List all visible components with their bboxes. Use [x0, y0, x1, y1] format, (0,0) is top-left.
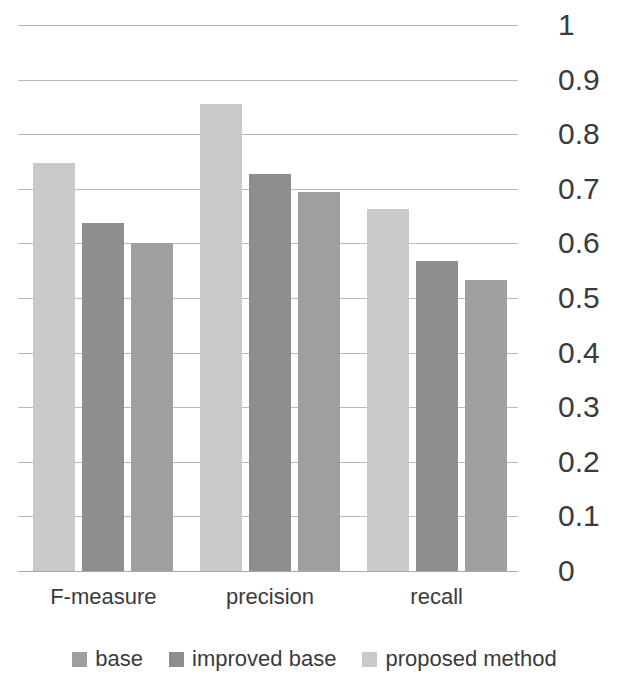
legend-label: proposed method: [385, 648, 556, 670]
bar: [33, 163, 75, 571]
legend-label: base: [95, 648, 143, 670]
y-tick-label: 0: [558, 556, 575, 586]
bar: [131, 243, 173, 571]
gridline: [18, 571, 518, 572]
y-tick-label: 0.1: [558, 501, 600, 531]
plot-area: [18, 25, 518, 571]
y-tick-label: 0.9: [558, 65, 600, 95]
legend-item[interactable]: proposed method: [362, 648, 556, 670]
bar: [298, 192, 340, 571]
y-tick-label: 0.3: [558, 392, 600, 422]
gridline: [18, 80, 518, 81]
legend-swatch-icon: [362, 652, 377, 667]
bar: [82, 223, 124, 571]
legend-item[interactable]: base: [72, 648, 143, 670]
gridline: [18, 134, 518, 135]
legend-label: improved base: [192, 648, 336, 670]
y-tick-label: 0.5: [558, 283, 600, 313]
y-tick-label: 0.7: [558, 174, 600, 204]
bar: [465, 280, 507, 571]
category-label: precision: [226, 586, 314, 608]
y-tick-label: 0.4: [558, 338, 600, 368]
bar-chart: 00.10.20.30.40.50.60.70.80.91 F-measurep…: [0, 0, 629, 693]
bar: [367, 209, 409, 571]
chart-legend: baseimproved baseproposed method: [0, 648, 629, 670]
bar: [416, 261, 458, 571]
legend-item[interactable]: improved base: [169, 648, 336, 670]
category-label: recall: [410, 586, 463, 608]
bar: [249, 174, 291, 571]
y-tick-label: 0.8: [558, 119, 600, 149]
category-label: F-measure: [50, 586, 156, 608]
legend-swatch-icon: [72, 652, 87, 667]
legend-swatch-icon: [169, 652, 184, 667]
gridline: [18, 25, 518, 26]
x-axis: F-measureprecisionrecall: [18, 586, 518, 620]
y-axis: 00.10.20.30.40.50.60.70.80.91: [558, 0, 628, 600]
bar: [200, 104, 242, 571]
y-tick-label: 0.6: [558, 228, 600, 258]
y-tick-label: 0.2: [558, 447, 600, 477]
y-tick-label: 1: [558, 10, 575, 40]
